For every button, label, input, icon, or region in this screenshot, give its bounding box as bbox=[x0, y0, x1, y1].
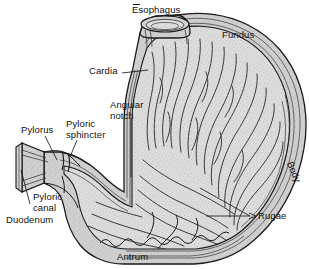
leader-pyloric-sphincter bbox=[70, 140, 77, 157]
label-angular-notch-line1: Angular bbox=[110, 100, 143, 111]
stomach-anatomy-figure: Esophagus Fundus Cardia Angular notch Py… bbox=[0, 0, 309, 269]
label-pyloric-canal-line2: canal bbox=[33, 203, 56, 214]
label-pyloric-sphincter-line2: sphincter bbox=[66, 130, 105, 141]
duodenum bbox=[16, 143, 48, 192]
label-pyloric-sphincter-line1: Pyloric bbox=[66, 119, 95, 130]
label-rugae: Rugae bbox=[258, 211, 287, 222]
label-angular-notch-line2: notch bbox=[110, 111, 134, 122]
label-esophagus: Esophagus bbox=[132, 5, 180, 16]
label-fundus: Fundus bbox=[222, 30, 254, 41]
label-pyloric-canal-line1: Pyloric bbox=[33, 192, 62, 203]
label-antrum: Antrum bbox=[117, 252, 148, 263]
label-cardia: Cardia bbox=[89, 66, 118, 77]
label-duodenum: Duodenum bbox=[6, 215, 53, 226]
label-pylorus: Pylorus bbox=[21, 125, 53, 136]
